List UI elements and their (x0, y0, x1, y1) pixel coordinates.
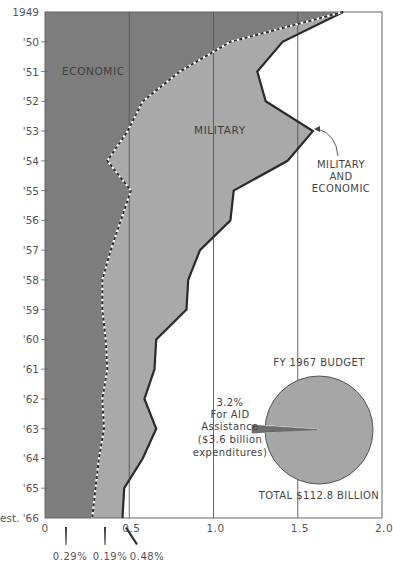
pie-callout-1: 3.2% (216, 397, 243, 408)
pie-callout-5: expenditures) (193, 447, 267, 458)
military-area-label: MILITARY (194, 124, 246, 136)
y-tick-label: '51 (23, 66, 39, 78)
y-tick-label: '58 (23, 274, 39, 286)
mil-econ-label-3: ECONOMIC (312, 183, 370, 194)
mil-econ-label-2: AND (329, 171, 352, 182)
y-tick-label: '61 (23, 363, 39, 375)
pie-callout-4: ($3.6 billion (198, 434, 262, 445)
y-tick-label: '57 (23, 244, 39, 256)
pie-total: TOTAL $112.8 BILLION (258, 490, 379, 501)
mil-econ-label-1: MILITARY (317, 159, 365, 170)
y-tick-label: '60 (23, 333, 39, 345)
y-tick-label: '54 (23, 155, 40, 167)
pct-label-019: 0.19% (93, 551, 127, 562)
pie-callout-3: Assistance (201, 421, 258, 432)
y-tick-label: '64 (23, 452, 40, 464)
y-tick-label: '62 (23, 393, 39, 405)
pct-label-029: 0.29% (53, 551, 87, 562)
x-tick-label: 2.0 (375, 522, 393, 534)
x-axis: 00.51.01.52.0 (41, 522, 393, 534)
pct-label-048: 0.48% (130, 551, 164, 562)
pie-callout-2: For AID (210, 409, 249, 420)
y-tick-label: '56 (23, 214, 40, 226)
y-tick-label: '59 (23, 304, 39, 316)
pie-title: FY 1967 BUDGET (273, 357, 365, 368)
y-tick-label: '63 (23, 423, 39, 435)
aid-chart: 1949'50'51'52'53'54'55'56'57'58'59'60'61… (0, 0, 393, 563)
marker-029 (65, 527, 67, 545)
x-tick-label: 0 (41, 522, 48, 534)
y-axis: 1949'50'51'52'53'54'55'56'57'58'59'60'61… (0, 6, 48, 524)
economic-area-label: ECONOMIC (62, 65, 125, 77)
y-tick-label: '53 (23, 125, 39, 137)
y-tick-label: '52 (23, 95, 39, 107)
x-tick-label: 1.5 (291, 522, 309, 534)
y-tick-label: '65 (23, 482, 39, 494)
x-tick-label: 1.0 (206, 522, 224, 534)
y-tick-label: est. '66 (0, 512, 39, 524)
marker-019 (104, 527, 106, 545)
y-tick-label: '55 (23, 185, 39, 197)
x-tick-label: 0.5 (122, 522, 140, 534)
y-tick-label: 1949 (12, 6, 39, 18)
y-tick-label: '50 (23, 36, 39, 48)
